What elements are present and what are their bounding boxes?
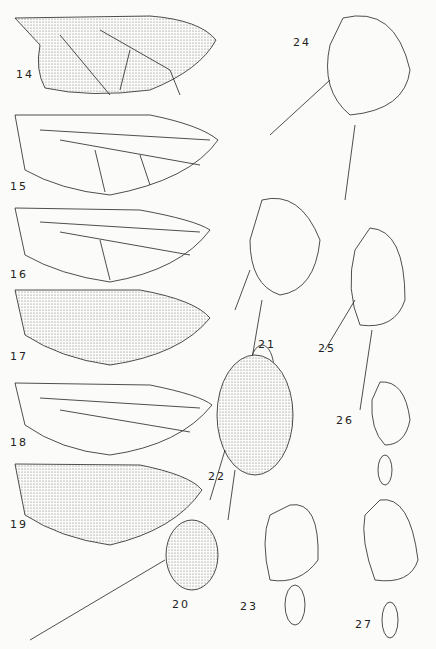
figure-label-27: 27 xyxy=(355,618,373,631)
figure-label-20: 20 xyxy=(172,598,190,611)
figure-label-19: 19 xyxy=(10,518,28,531)
figure-label-16: 16 xyxy=(10,268,28,281)
figure-label-21: 21 xyxy=(258,338,276,351)
figure-label-17: 17 xyxy=(10,350,28,363)
figure-label-24: 24 xyxy=(293,36,311,49)
figure-label-14: 14 xyxy=(16,68,34,81)
figure-label-23: 23 xyxy=(240,600,258,613)
figure-label-26: 26 xyxy=(336,414,354,427)
plate-drawings xyxy=(0,0,436,649)
illustration-plate: 14 15 16 17 18 19 20 21 22 23 24 25 26 2… xyxy=(0,0,436,649)
figure-label-22: 22 xyxy=(208,470,226,483)
figure-label-25: 25 xyxy=(318,342,336,355)
figure-label-18: 18 xyxy=(10,436,28,449)
figure-label-15: 15 xyxy=(10,180,28,193)
